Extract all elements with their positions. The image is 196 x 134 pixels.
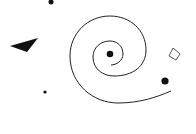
diagram-canvas xyxy=(0,0,196,134)
small-dot xyxy=(43,90,46,93)
spiral-center-dot xyxy=(107,51,114,58)
background xyxy=(0,0,196,134)
right-dot xyxy=(161,77,168,84)
